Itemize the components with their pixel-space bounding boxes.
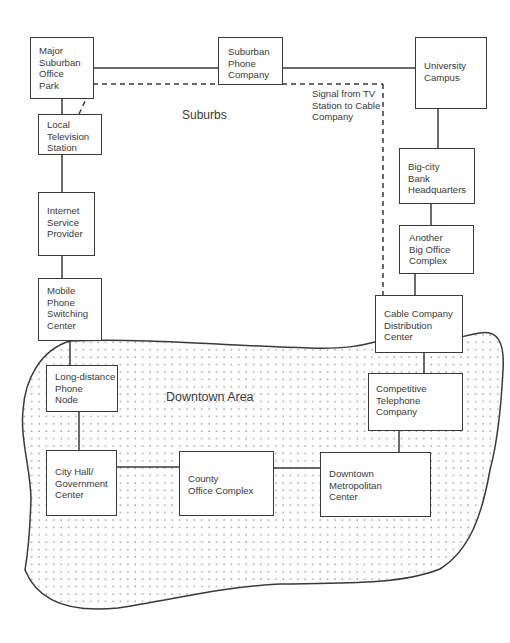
node-label: Cable Company Distribution Center bbox=[384, 308, 453, 343]
node-label: Downtown Metropolitan Center bbox=[329, 468, 382, 503]
node-long-distance: Long-distance Phone Node bbox=[46, 365, 118, 412]
node-county-office: County Office Complex bbox=[179, 451, 274, 516]
node-label: Internet Service Provider bbox=[47, 205, 83, 240]
node-bank-hq: Big-city Bank Headquarters bbox=[399, 148, 475, 204]
node-label: Suburban Phone Company bbox=[228, 46, 270, 81]
node-isp: Internet Service Provider bbox=[38, 192, 95, 256]
node-city-hall: City Hall/ Government Center bbox=[46, 450, 117, 516]
suburbs-label: Suburbs bbox=[182, 108, 227, 122]
node-office-park: Major Suburban Office Park bbox=[30, 37, 94, 99]
node-local-tv: Local Television Station bbox=[38, 114, 102, 155]
node-competitive-tel: Competitive Telephone Company bbox=[368, 373, 463, 431]
node-label: County Office Complex bbox=[188, 473, 253, 496]
node-label: Another Big Office Complex bbox=[409, 232, 450, 267]
node-big-office: Another Big Office Complex bbox=[399, 225, 474, 274]
node-cable-dist: Cable Company Distribution Center bbox=[375, 295, 463, 353]
node-label: Major Suburban Office Park bbox=[39, 45, 81, 91]
node-university: University Campus bbox=[415, 37, 487, 109]
network-diagram: Suburbs Downtown Area Signal from TV Sta… bbox=[0, 0, 510, 643]
node-label: Local Television Station bbox=[47, 119, 89, 154]
node-label: Big-city Bank Headquarters bbox=[408, 161, 466, 196]
node-label: Competitive Telephone Company bbox=[376, 383, 427, 418]
downtown-area-label: Downtown Area bbox=[166, 390, 254, 404]
node-label: Long-distance Phone Node bbox=[55, 371, 115, 406]
signal-annotation: Signal from TV Station to Cable Company bbox=[312, 88, 380, 123]
node-label: University Campus bbox=[424, 60, 466, 83]
node-mobile-switch: Mobile Phone Switching Center bbox=[38, 278, 102, 341]
node-suburban-phone: Suburban Phone Company bbox=[218, 37, 283, 85]
node-label: City Hall/ Government Center bbox=[55, 466, 108, 501]
node-downtown-metro: Downtown Metropolitan Center bbox=[320, 452, 431, 517]
node-label: Mobile Phone Switching Center bbox=[47, 285, 88, 331]
